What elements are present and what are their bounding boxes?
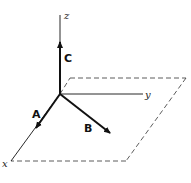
vector-b-label: B (84, 122, 92, 135)
z-axis-label: z (63, 10, 70, 21)
y-axis-label: y (144, 89, 151, 100)
vector-c-label: C (64, 52, 72, 65)
vector-a-label: A (32, 108, 41, 121)
x-axis-label: x (2, 158, 8, 169)
vector-diagram: z y x C A B (0, 0, 191, 183)
